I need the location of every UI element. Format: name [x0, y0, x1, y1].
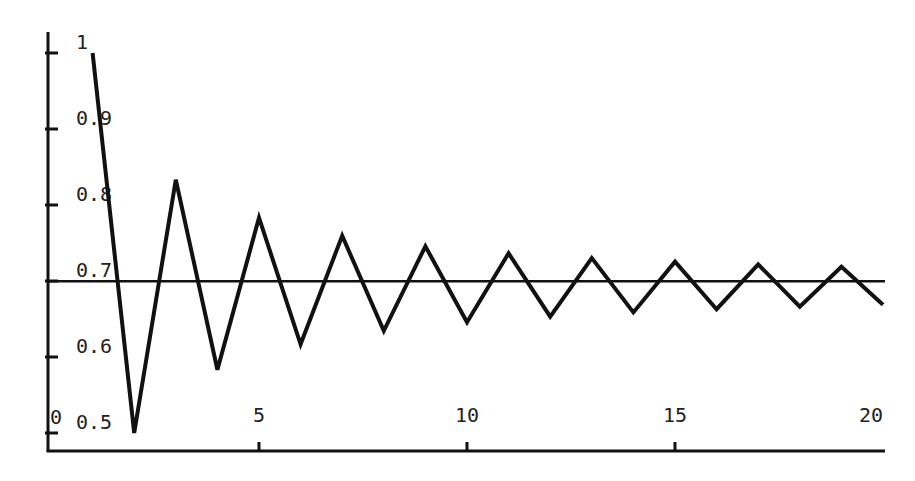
- y-tick-label: 1: [76, 30, 88, 54]
- y-tick-label: 0.9: [76, 106, 112, 130]
- axes: [47, 32, 886, 451]
- x-tick-label: 5: [253, 403, 265, 427]
- y-tick-label: 0.7: [76, 258, 112, 282]
- tick-labels: 0.50.60.70.80.9151015200: [50, 30, 883, 434]
- y-tick-label: 0.5: [76, 410, 112, 434]
- x-tick-label: 10: [455, 403, 479, 427]
- x-tick-label: 20: [859, 403, 883, 427]
- series-line: [93, 53, 883, 433]
- x-tick-label: 15: [663, 403, 687, 427]
- line-chart: 0.50.60.70.80.9151015200: [0, 0, 915, 481]
- y-tick-label: 0.6: [76, 334, 112, 358]
- origin-label: 0: [50, 405, 62, 429]
